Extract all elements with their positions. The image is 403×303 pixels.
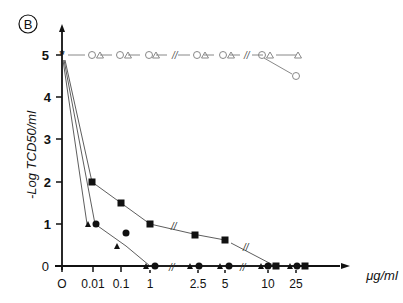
- axis-break-mark: //: [171, 50, 179, 61]
- panel-label: B: [19, 15, 37, 33]
- x-tick-label: 10: [261, 277, 275, 291]
- x-axis-arrow-icon: [341, 263, 350, 269]
- axis-break-mark: //: [168, 262, 176, 273]
- series-filled-lines: [63, 60, 296, 266]
- start-star-marker: *: [59, 47, 65, 62]
- y-tick-label: 3: [44, 132, 51, 147]
- y-tick-label: 5: [42, 48, 49, 63]
- axis-break-mark: //: [239, 262, 247, 273]
- x-tick-label: 1: [147, 277, 154, 291]
- panel-label-text: B: [24, 17, 33, 32]
- x-tick-label: 0.1: [113, 277, 130, 291]
- series-filled-markers: [85, 179, 309, 270]
- axis-break-mark: //: [242, 242, 250, 253]
- y-tick-label: 4: [44, 90, 52, 105]
- x-tick-label: O: [57, 277, 66, 291]
- filled-circle-marker: [93, 221, 100, 228]
- x-tick-label: 25: [289, 277, 303, 291]
- y-tick-label: 2: [44, 175, 51, 190]
- x-tick-label: 5: [222, 277, 229, 291]
- series-open-markers: // //: [68, 50, 302, 80]
- y-axis-label: -Log TCD50/ml: [24, 110, 39, 199]
- open-circle-marker: [89, 52, 96, 59]
- x-tick-label: 0.01: [81, 277, 105, 291]
- axis-break-mark: //: [243, 50, 251, 61]
- filled-square-marker: [89, 179, 96, 186]
- chart-figure: B 5 4 3 2 1 0 -Log TCD50/ml O 0.01 0.1 1…: [0, 0, 403, 303]
- x-axis-label: μg/ml: [365, 268, 399, 283]
- x-tick-label: 2.5: [190, 277, 207, 291]
- y-axis-arrow-icon: [59, 24, 65, 32]
- y-tick-label: 1: [44, 217, 51, 232]
- filled-triangle-marker: [85, 221, 91, 227]
- y-tick-label: 0: [42, 259, 49, 274]
